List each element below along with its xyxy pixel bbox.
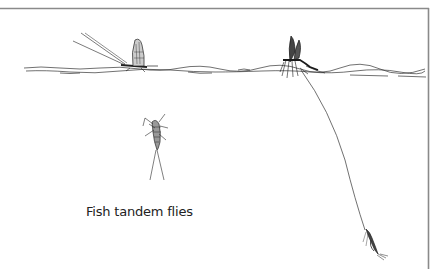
tandem-flies-illustration [0,0,443,269]
caption-text: Fish tandem flies [86,204,193,219]
dropper-nymph-fly [363,229,388,260]
dry-fly-dun-left [73,33,158,72]
water-surface [24,64,426,77]
emerging-nymph [143,114,168,180]
tippet-line [301,70,365,230]
